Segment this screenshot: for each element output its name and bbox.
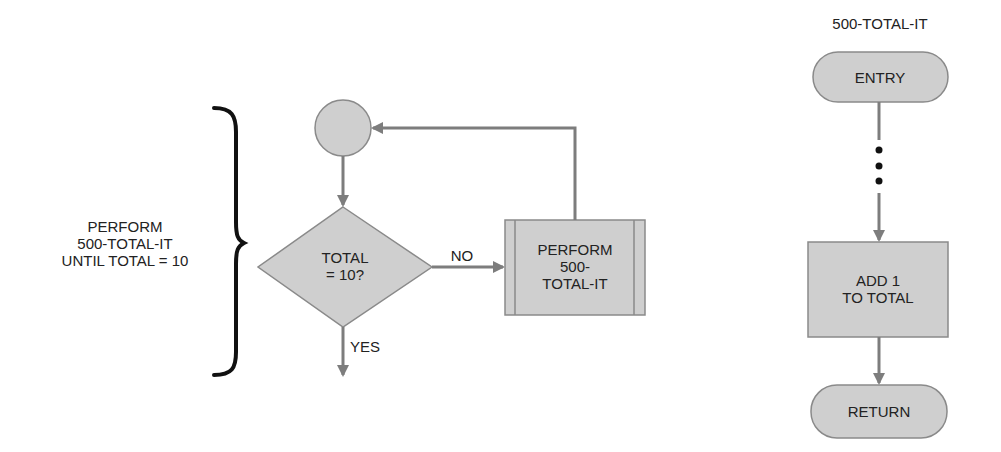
subroutine-title: 500-TOTAL-IT (832, 15, 927, 32)
add-process-label: ADD 1 TO TOTAL (842, 272, 913, 306)
return-label: RETURN (848, 403, 911, 420)
decision-line-1: TOTAL (322, 249, 369, 266)
arrow-loop-back (373, 128, 575, 220)
perform-line-1: PERFORM (62, 218, 189, 235)
ellipsis-dot (876, 163, 883, 170)
curly-brace (214, 108, 244, 375)
add-line-1: ADD 1 (842, 272, 913, 289)
perform-line-3: UNTIL TOTAL = 10 (62, 252, 189, 269)
decision-label: TOTAL = 10? (322, 249, 369, 283)
entry-label: ENTRY (855, 69, 906, 86)
decision-line-2: = 10? (322, 266, 369, 283)
ellipsis-dot (876, 147, 883, 154)
predefined-line-2: 500- (538, 258, 613, 275)
perform-statement-label: PERFORM 500-TOTAL-IT UNTIL TOTAL = 10 (62, 218, 189, 269)
predefined-line-1: PERFORM (538, 241, 613, 258)
perform-line-2: 500-TOTAL-IT (62, 235, 189, 252)
predefined-process-label: PERFORM 500- TOTAL-IT (538, 241, 613, 292)
loop-connector-circle (315, 100, 371, 156)
ellipsis-dot (876, 178, 883, 185)
yes-branch-label: YES (350, 338, 380, 355)
predefined-line-3: TOTAL-IT (538, 275, 613, 292)
add-line-2: TO TOTAL (842, 289, 913, 306)
no-branch-label: NO (451, 247, 474, 264)
